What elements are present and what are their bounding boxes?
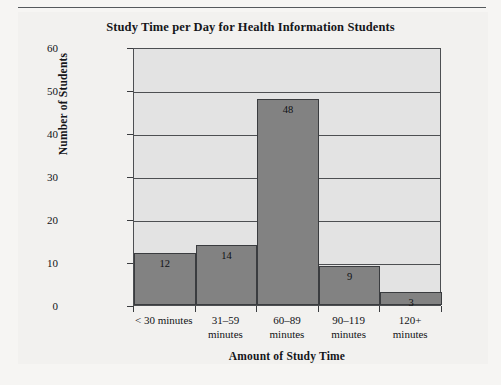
x-tick-label: 90–119minutes: [318, 313, 380, 341]
bar[interactable]: 3: [380, 292, 442, 305]
x-tick-mark: [195, 306, 196, 312]
x-axis-title: Amount of Study Time: [133, 350, 441, 362]
x-tick-mark: [379, 306, 380, 312]
y-tick-label: 0: [18, 301, 58, 312]
y-tick-label: 50: [18, 86, 58, 97]
plot-area: 12144893: [133, 48, 441, 306]
x-tick-mark: [318, 306, 319, 312]
bar[interactable]: 14: [196, 245, 258, 305]
y-axis-title: Number of Students: [57, 24, 69, 184]
bars-group: 12144893: [134, 49, 440, 305]
x-tick-label: 60–89minutes: [256, 313, 318, 341]
y-tick-label: 10: [18, 258, 58, 269]
bar-value-label: 12: [135, 258, 195, 269]
bar[interactable]: 9: [319, 266, 381, 305]
histogram-figure: Study Time per Day for Health Informatio…: [0, 0, 501, 385]
bar[interactable]: 48: [257, 99, 319, 305]
x-tick-label: < 30 minutes: [133, 313, 195, 327]
y-tick-label: 20: [18, 215, 58, 226]
bar-value-label: 14: [197, 250, 257, 261]
y-tick-label: 30: [18, 172, 58, 183]
bar-value-label: 3: [381, 297, 441, 308]
x-tick-mark: [441, 306, 442, 312]
x-tick-label: 120+minutes: [379, 313, 441, 341]
y-tick-label: 40: [18, 129, 58, 140]
bar[interactable]: 12: [134, 253, 196, 305]
chart-title: Study Time per Day for Health Informatio…: [0, 20, 501, 35]
bar-value-label: 9: [320, 271, 380, 282]
y-tick-label: 60: [18, 43, 58, 54]
x-tick-label: 31–59minutes: [195, 313, 257, 341]
bar-value-label: 48: [258, 104, 318, 115]
x-tick-mark: [133, 306, 134, 312]
x-tick-mark: [256, 306, 257, 312]
